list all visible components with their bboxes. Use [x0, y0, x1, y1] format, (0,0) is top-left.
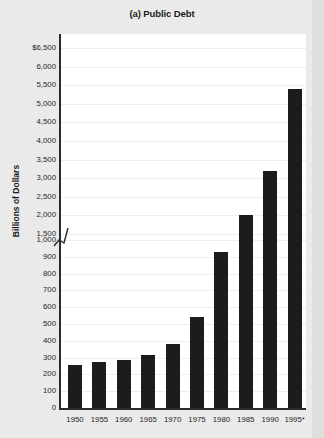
gridline — [60, 85, 306, 86]
y-axis-tick-label: 700 — [2, 285, 56, 294]
y-axis-tick-label: 5,000 — [2, 99, 56, 108]
bar — [263, 171, 277, 408]
axis-break-icon — [53, 227, 69, 247]
y-axis-tick-label: 1,000 — [2, 235, 56, 244]
y-axis-tick-label: 2,000 — [2, 210, 56, 219]
bar — [141, 355, 155, 408]
y-axis-tick-label: 5,500 — [2, 80, 56, 89]
bar — [92, 362, 106, 408]
y-axis-tick-label: 2,500 — [2, 192, 56, 201]
y-axis-line — [59, 34, 61, 409]
y-axis-tick-label: 0 — [2, 403, 56, 412]
bar — [288, 89, 302, 408]
gridline — [60, 104, 306, 105]
bar — [68, 365, 82, 408]
y-axis-tick-label: 500 — [2, 319, 56, 328]
y-axis-tick-label: 900 — [2, 252, 56, 261]
figure-panel: (a) Public Debt Billions of Dollars $6,5… — [0, 0, 324, 438]
gridline — [60, 67, 306, 68]
bar — [239, 215, 253, 408]
chart-title: (a) Public Debt — [0, 8, 324, 19]
bar — [166, 344, 180, 408]
y-axis-tick-label: 4,500 — [2, 117, 56, 126]
y-axis-tick-label: 100 — [2, 386, 56, 395]
y-axis-tick-label: 600 — [2, 302, 56, 311]
bar — [117, 360, 131, 408]
gridline — [60, 48, 306, 49]
y-axis-tick-label: 200 — [2, 369, 56, 378]
y-axis-tick-label: 3,500 — [2, 155, 56, 164]
y-axis-tick-label: 800 — [2, 269, 56, 278]
gridline — [60, 122, 306, 123]
gridline — [60, 141, 306, 142]
bar — [190, 317, 204, 408]
y-axis-tick-label: 3,000 — [2, 173, 56, 182]
bar — [214, 252, 228, 408]
x-axis-line — [59, 408, 306, 410]
y-axis-tick-label: 4,000 — [2, 136, 56, 145]
x-axis-tick-label: 1995* — [278, 415, 312, 424]
page-margin — [312, 0, 324, 438]
y-axis-tick-label: $6,500 — [2, 43, 56, 52]
gridline — [60, 160, 306, 161]
y-axis-tick-label: 300 — [2, 353, 56, 362]
y-axis-tick-label: 400 — [2, 336, 56, 345]
y-axis-tick-label: 6,000 — [2, 62, 56, 71]
